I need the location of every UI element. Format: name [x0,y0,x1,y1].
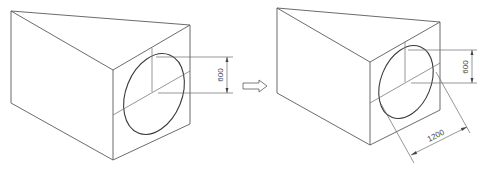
box-wireframe [11,11,190,160]
box-wireframe [277,8,440,145]
dimension-600: 600 [408,50,477,83]
right-arrow-icon [243,80,267,92]
dimension-label: 600 [216,68,225,82]
figure-after: 600 1200 [277,8,477,163]
dimension-label: 600 [461,60,470,74]
diagram-canvas: 600 600 1200 [0,0,483,173]
circle-opening [369,37,444,126]
figure-before: 600 [11,11,233,160]
circle-opening [112,45,195,144]
dimension-label: 1200 [426,127,446,143]
dimension-600: 600 [156,57,233,93]
